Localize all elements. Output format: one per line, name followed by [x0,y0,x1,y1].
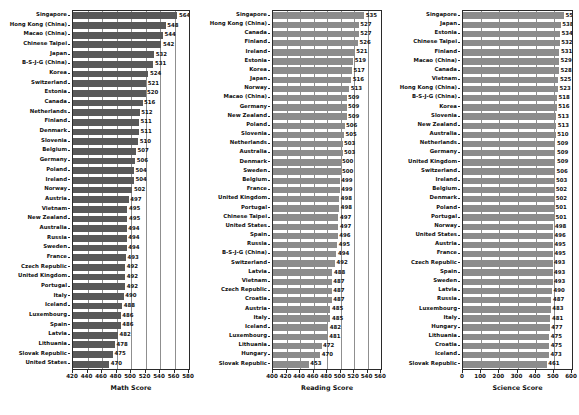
category-tick [458,336,461,337]
category-tick [458,363,461,364]
bar-row: 513 [273,86,381,92]
category-label: Singapore [236,12,267,17]
bar-row: 497 [73,196,189,203]
bar [273,297,332,303]
bar [273,315,330,321]
category-tick [458,272,461,273]
bar [73,148,136,155]
category-label: Sweden [433,278,457,283]
bar-value-label: 501 [554,206,567,211]
bar-value-label: 513 [556,114,569,119]
bar [73,138,138,145]
category-tick [458,24,461,25]
category-label: Finland [434,49,457,54]
category-tick [268,152,271,153]
category-tick [68,92,71,93]
bar [273,104,347,110]
category-tick [268,70,271,71]
bar [273,242,337,248]
category-label: Lithuania [239,342,268,347]
category-label: Hong Kong (China) [210,21,267,26]
category-label: United States [415,232,457,237]
category-tick [268,272,271,273]
bar-row: 503 [273,150,381,156]
bar-value-label: 509 [555,151,568,156]
bar-row: 478 [73,341,189,348]
bar [73,109,140,116]
bar-row: 475 [73,351,189,358]
category-tick [268,106,271,107]
category-label: Latvia [438,287,457,292]
bar [73,12,177,19]
x-tick-label: 200 [492,374,504,380]
category-label: Finland [44,118,67,123]
bar [73,312,121,319]
bar-row: 520 [73,90,189,97]
category-tick [68,305,71,306]
category-label: Japan [50,51,67,56]
bar-row: 510 [463,132,572,138]
bar-row: 490 [73,293,189,300]
category-label: Germany [430,149,457,154]
x-tick-label: 480 [110,374,122,380]
bar-value-label: 512 [140,110,153,115]
category-label: Iceland [45,302,67,307]
bar [73,225,127,232]
bar [463,22,561,28]
bar-row: 496 [463,233,572,239]
bar-value-label: 478 [115,342,128,347]
bar-value-label: 523 [558,86,571,91]
bar-row: 493 [73,254,189,261]
bar [463,315,550,321]
bar-row: 470 [73,361,189,368]
category-label: Austria [245,306,267,311]
bar-row: 529 [463,58,572,64]
bar-row: 494 [73,245,189,252]
category-label: Germany [40,157,67,162]
category-label: Italy [443,315,457,320]
category-label: Germany [240,104,267,109]
bar-value-label: 544 [163,32,176,37]
bar-value-label: 510 [138,139,151,144]
bar [273,123,345,129]
category-label: New Zealand [418,122,457,127]
bar [73,322,121,329]
bar-row: 507 [73,148,189,155]
bar-row: 494 [73,235,189,242]
bar-row: 564 [73,12,189,19]
category-tick [268,60,271,61]
bar-value-label: 481 [328,334,341,339]
bar-value-label: 492 [335,261,348,266]
category-label: B-S-J-G (China) [22,60,67,65]
bar-row: 509 [273,95,381,101]
bar-row: 492 [273,260,381,266]
bar-value-label: 556 [564,13,573,18]
bar-value-label: 497 [338,224,351,229]
category-tick [68,131,71,132]
bar-row: 500 [273,159,381,165]
bar-row: 519 [273,58,381,64]
category-label: Sweden [243,168,267,173]
category-tick [268,161,271,162]
bar-value-label: 473 [549,353,562,358]
bar [273,361,309,367]
bar [273,233,338,239]
bar-row: 538 [463,22,572,28]
category-label: Chinese Taipei [223,214,267,219]
bar-value-label: 495 [127,207,140,212]
category-tick [458,308,461,309]
category-tick [268,308,271,309]
category-tick [68,141,71,142]
category-tick [68,353,71,354]
category-tick [68,344,71,345]
category-label: Chinese Taipei [413,39,457,44]
category-label: Australia [40,225,67,230]
bar-rows-science: 5565385345325315295285255235185165135135… [463,11,572,369]
bar-value-label: 532 [560,40,573,45]
category-tick [458,125,461,126]
bar-row: 483 [463,306,572,312]
bar-value-label: 521 [355,50,368,55]
category-label: Hong Kong (China) [400,85,457,90]
bar [463,141,555,147]
bar-value-label: 517 [352,68,365,73]
